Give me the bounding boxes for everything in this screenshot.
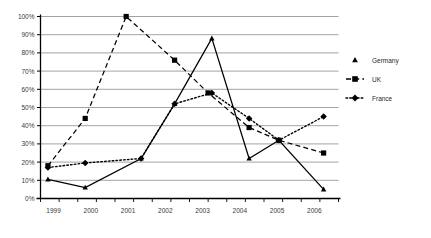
x-tick-label: 2003 [195,207,210,214]
y-tick-label: 80% [21,49,34,56]
x-tick-label: 2000 [84,207,99,214]
y-tick-label: 20% [21,159,34,166]
data-point-germany [246,156,251,161]
legend-label: France [372,95,393,102]
y-tick-label: 90% [21,31,34,38]
data-point-uk [83,116,88,121]
series-markers [45,14,327,192]
x-tick-label: 2004 [233,207,248,214]
data-point-uk [321,150,326,155]
legend-label: UK [372,76,382,83]
x-tick-label: 1999 [46,207,61,214]
x-tick-label: 2006 [307,207,322,214]
data-point-france [171,101,178,108]
data-point-germany [209,36,214,41]
data-point-uk [172,58,177,63]
series-line-germany [48,38,324,189]
legend-marker-diamond [351,94,358,101]
data-point-france [82,160,89,167]
y-axis-tick-labels: 0%10%20%30%40%50%60%70%80%90%100% [18,13,35,202]
y-tick-label: 50% [21,104,34,111]
series-line-france [48,93,324,168]
data-point-germany [45,177,50,182]
x-tick-label: 2001 [121,207,136,214]
gridlines [41,17,339,199]
y-tick-label: 0% [25,195,35,202]
chart-legend: GermanyUKFrance [346,57,399,102]
data-point-france [320,113,327,120]
legend-item-france[interactable]: France [346,94,393,101]
legend-marker-square [352,76,358,82]
data-point-france [138,155,145,162]
y-tick-label: 30% [21,140,34,147]
x-tick-label: 2005 [270,207,285,214]
y-tick-label: 40% [21,122,34,129]
legend-item-uk[interactable]: UK [346,76,382,83]
chart-container: 0%10%20%30%40%50%60%70%80%90%100% 199920… [0,0,431,238]
x-axis-tick-labels: 19992000200120022003200420052006 [46,207,322,214]
y-tick-label: 60% [21,86,34,93]
data-point-uk [247,125,252,130]
legend-label: Germany [372,57,399,65]
y-tick-label: 70% [21,68,34,75]
data-point-uk [124,14,129,19]
y-tick-label: 10% [21,177,34,184]
line-chart: 0%10%20%30%40%50%60%70%80%90%100% 199920… [0,0,431,238]
legend-marker-triangle [352,57,358,62]
legend-item-germany[interactable]: Germany [352,57,399,65]
y-tick-label: 100% [18,13,35,20]
x-tick-label: 2002 [158,207,173,214]
series-lines [48,17,324,190]
